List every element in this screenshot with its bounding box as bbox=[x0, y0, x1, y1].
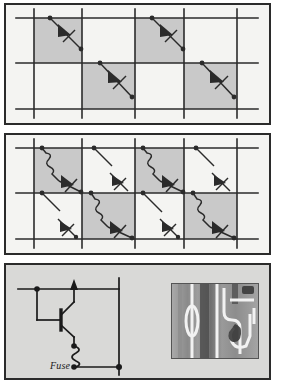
figure-root: Fuse bbox=[0, 0, 281, 383]
collector-arrow-head bbox=[70, 279, 78, 290]
panel-diode-array-top bbox=[4, 3, 271, 125]
diode-only-branch-b-0 bbox=[110, 173, 128, 191]
transistor-emitter-lead bbox=[61, 325, 74, 337]
panel-diode-fuse-array-middle bbox=[4, 133, 271, 255]
transistor-collector-lead bbox=[61, 302, 74, 315]
diode-only-branch-b-3 bbox=[160, 219, 180, 239]
stub-branch-b-3 bbox=[141, 191, 162, 212]
fuse-label: Fuse bbox=[50, 360, 70, 371]
panel-a-graphic bbox=[6, 5, 269, 123]
bit-line-node bbox=[116, 364, 122, 370]
device-micrograph bbox=[171, 283, 259, 359]
diode-only-branch-b-1 bbox=[212, 173, 230, 191]
fuse-symbol bbox=[72, 346, 80, 367]
diode-only-branch-b-2 bbox=[58, 219, 78, 239]
panel-b-graphic bbox=[6, 135, 269, 253]
panel-cell-schematic-and-micrograph: Fuse bbox=[4, 263, 271, 380]
micrograph-image bbox=[172, 284, 258, 358]
